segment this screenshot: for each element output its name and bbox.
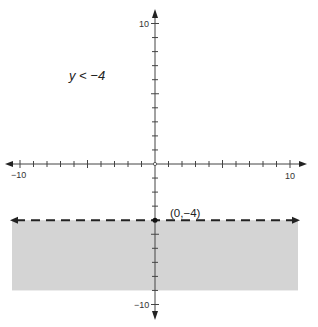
origin-marker: [153, 162, 156, 165]
coordinate-plane: [0, 0, 318, 327]
point-label: (0,−4): [170, 207, 200, 219]
y-axis-top-arrow-icon: [152, 9, 158, 18]
x-axis-left-arrow-icon: [5, 161, 13, 167]
y-axis-bottom-arrow-icon: [152, 311, 158, 320]
y-axis-max-label: 10: [139, 20, 149, 29]
inequality-text: y < −4: [69, 68, 105, 83]
x-axis-max-label: 10: [285, 172, 295, 181]
inequality-label: y < −4: [69, 68, 105, 83]
x-axis-right-arrow-icon: [299, 161, 307, 167]
x-axis-min-label: −10: [11, 171, 26, 180]
y-axis-min-label: −10: [134, 301, 149, 310]
point-marker: [153, 218, 158, 223]
